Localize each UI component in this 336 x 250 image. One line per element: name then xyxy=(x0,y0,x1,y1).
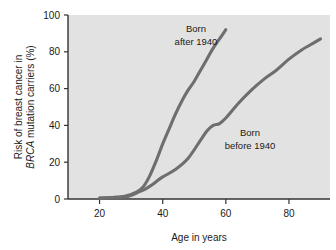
y-tick-label: 60 xyxy=(49,83,61,94)
y-axis-title-gene-name: BRCA xyxy=(25,141,36,169)
x-tick-label: 40 xyxy=(157,208,169,219)
y-axis-title-line1: Risk of breast cancer in xyxy=(13,55,24,160)
y-tick-label: 20 xyxy=(49,157,61,168)
risk-by-age-line-chart: 020406080100 20406080 Born after 1940 Bo… xyxy=(0,0,336,250)
x-axis-title: Age in years xyxy=(171,232,227,243)
chart-figure: 020406080100 20406080 Born after 1940 Bo… xyxy=(0,0,336,250)
x-tick-label: 60 xyxy=(220,208,232,219)
annotation-after-1940-line2: after 1940 xyxy=(175,36,218,47)
y-axis-title-line2: BRCA mutation carriers (%) xyxy=(25,45,36,168)
annotation-before-1940-line2: before 1940 xyxy=(225,140,276,151)
y-axis-title: Risk of breast cancer in BRCA mutation c… xyxy=(13,45,36,168)
y-axis-title-line2-rest: mutation carriers (%) xyxy=(25,45,36,141)
y-tick-label: 0 xyxy=(54,194,60,205)
annotation-after-1940-line1: Born xyxy=(186,23,206,34)
y-tick-label: 40 xyxy=(49,120,61,131)
x-tick-label: 80 xyxy=(283,208,295,219)
y-tick-label: 80 xyxy=(49,46,61,57)
annotation-before-1940-line1: Born xyxy=(240,127,260,138)
x-tick-label: 20 xyxy=(94,208,106,219)
y-tick-label: 100 xyxy=(43,10,60,21)
